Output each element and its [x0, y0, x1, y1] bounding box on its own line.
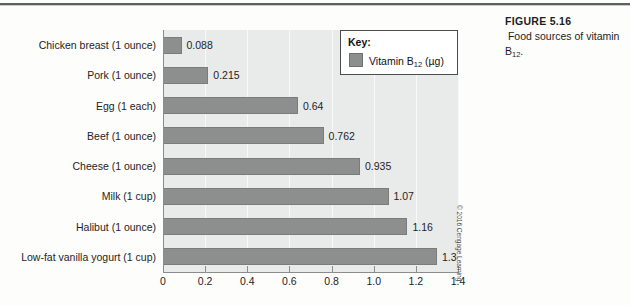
- axis-tick-label: 0: [160, 276, 166, 287]
- axis-tick: [247, 266, 248, 273]
- category-label: Low-fat vanilla yogurt (1 cup): [21, 252, 156, 263]
- bar: [163, 218, 407, 235]
- chart-legend: Key: Vitamin B12 (µg): [340, 30, 458, 75]
- category-label: Milk (1 cup): [102, 191, 156, 202]
- category-label: Chicken breast (1 ounce): [39, 40, 156, 51]
- bar-chart: Chicken breast (1 ounce)Pork (1 ounce)Eg…: [0, 20, 480, 305]
- bar: [163, 97, 298, 114]
- axis-tick: [289, 266, 290, 273]
- axis-tick: [332, 266, 333, 273]
- gridline: [332, 30, 333, 272]
- figure-caption: FIGURE 5.16 Food sources of vitamin B12.: [505, 14, 630, 59]
- value-axis-line: [163, 272, 459, 273]
- axis-tick-label: 0.6: [282, 276, 297, 287]
- caption-period: .: [520, 45, 523, 57]
- category-label: Halibut (1 ounce): [76, 222, 156, 233]
- axis-tick-label: 1.2: [409, 276, 424, 287]
- bar-value-label: 0.762: [329, 131, 355, 142]
- axis-tick: [416, 266, 417, 273]
- copyright-credit: © 2016 Cengage Learning: [456, 205, 463, 281]
- caption-subscript: 12: [512, 50, 520, 59]
- page-top-rule-shadow: [0, 5, 630, 6]
- bar-value-label: 0.64: [303, 101, 323, 112]
- legend-series-unit: (µg): [422, 55, 444, 67]
- gridline: [247, 30, 248, 272]
- category-label: Egg (1 each): [96, 101, 156, 112]
- legend-title: Key:: [348, 37, 371, 48]
- category-label: Beef (1 ounce): [87, 131, 156, 142]
- figure-number: FIGURE 5.16: [505, 15, 571, 27]
- category-label: Cheese (1 ounce): [73, 161, 156, 172]
- axis-tick: [374, 266, 375, 273]
- axis-tick-label: 0.4: [240, 276, 255, 287]
- bar-value-label: 1.07: [394, 191, 414, 202]
- legend-swatch-icon: [349, 53, 363, 67]
- axis-tick: [163, 266, 164, 273]
- bar-value-label: 1.16: [412, 222, 432, 233]
- category-axis-labels: Chicken breast (1 ounce)Pork (1 ounce)Eg…: [0, 30, 160, 272]
- bar: [163, 37, 182, 54]
- bar-value-label: 1.3: [442, 252, 457, 263]
- bar-value-label: 0.935: [365, 161, 391, 172]
- axis-tick-label: 1.0: [366, 276, 381, 287]
- bar: [163, 127, 324, 144]
- value-axis-origin-line: [163, 30, 164, 273]
- bar-value-label: 0.215: [213, 70, 239, 81]
- gridline: [289, 30, 290, 272]
- category-label: Pork (1 ounce): [87, 70, 156, 81]
- legend-series-subscript: 12: [414, 60, 422, 69]
- bar-value-label: 0.088: [187, 40, 213, 51]
- axis-tick-label: 0.2: [198, 276, 213, 287]
- caption-lead: Food: [505, 30, 535, 42]
- bar: [163, 67, 208, 84]
- axis-tick: [205, 266, 206, 273]
- axis-tick-label: 0.8: [324, 276, 339, 287]
- bar: [163, 188, 389, 205]
- figure-page: Chicken breast (1 ounce)Pork (1 ounce)Eg…: [0, 0, 630, 305]
- bar: [163, 158, 360, 175]
- legend-series-label: Vitamin B12 (µg): [369, 56, 444, 67]
- bar: [163, 248, 437, 265]
- legend-series-name: Vitamin B: [369, 55, 414, 67]
